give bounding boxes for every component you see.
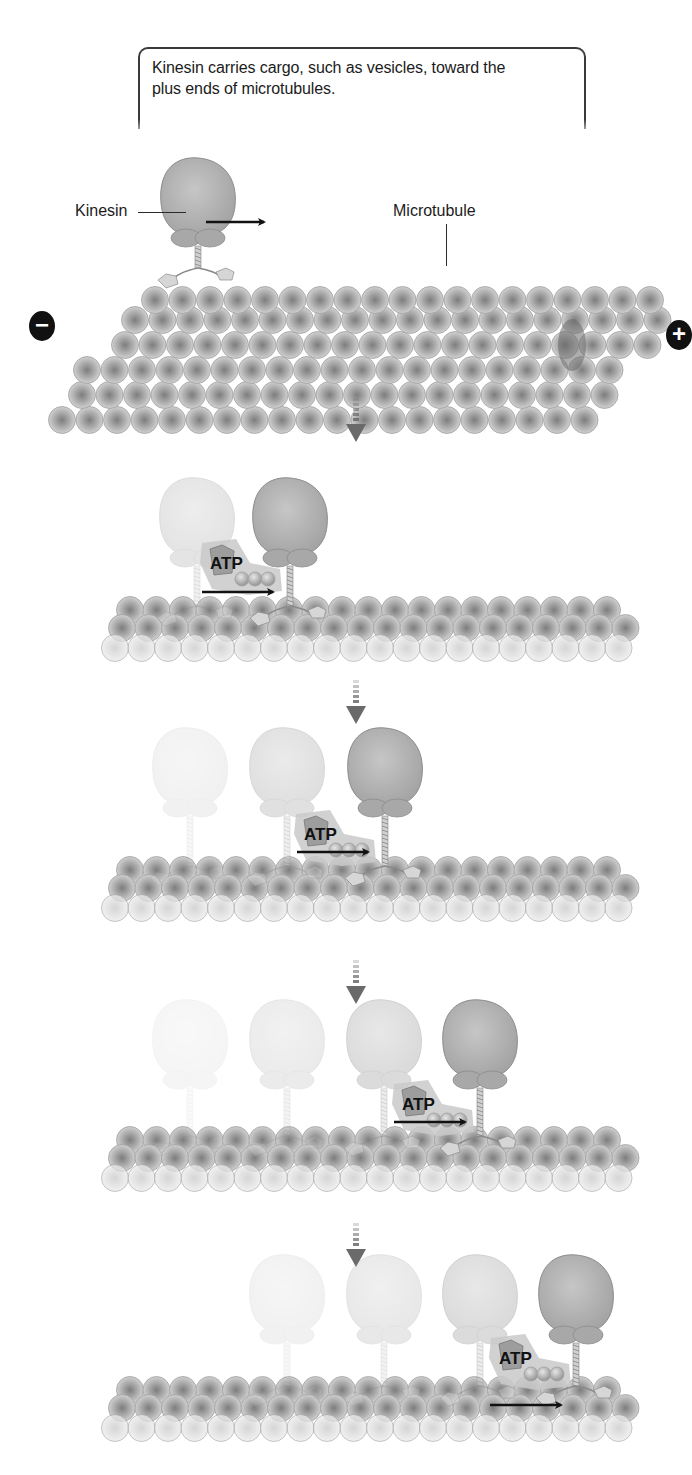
atp-label: ATP bbox=[402, 1095, 435, 1114]
step-down-arrow-icon bbox=[346, 960, 366, 1004]
plus-end-icon: + bbox=[666, 320, 692, 350]
microtubule-track bbox=[102, 857, 640, 922]
kinesin-label: Kinesin bbox=[75, 202, 127, 220]
atp-label: ATP bbox=[499, 1349, 532, 1368]
microtubule-label: Microtubule bbox=[393, 202, 476, 220]
kinesin-leader-line bbox=[138, 212, 186, 213]
atp-molecule: ATP bbox=[294, 810, 376, 866]
microtubule-track bbox=[102, 597, 640, 662]
step-down-arrow-icon bbox=[346, 680, 366, 724]
atp-label: ATP bbox=[304, 825, 337, 844]
atp-label: ATP bbox=[210, 554, 243, 573]
microtubule-track bbox=[102, 1127, 640, 1192]
microtubule-leader-line bbox=[446, 224, 447, 266]
minus-end-icon: − bbox=[29, 311, 55, 341]
